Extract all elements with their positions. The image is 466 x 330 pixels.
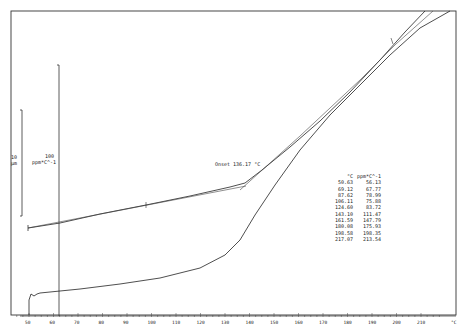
scale-bar-10um <box>20 110 22 216</box>
baseline-tangent <box>28 186 246 228</box>
x-tick-label: 150 <box>270 320 278 325</box>
tma-chart: 5060708090100110120130140150160170180190… <box>0 0 466 330</box>
cte-table: °Cppm*C^-150.6356.1369.1267.7787.6278.99… <box>327 173 381 242</box>
table-row: 217.07213.54 <box>327 236 381 242</box>
x-tick-label: 90 <box>123 320 129 325</box>
x-tick-label: 50 <box>25 320 31 325</box>
x-tick-label: 100 <box>148 320 156 325</box>
x-tick-label: 120 <box>197 320 205 325</box>
scale-big-unit: ppm*C^-1 <box>32 159 56 166</box>
range-end-mark <box>391 38 393 44</box>
x-tick-label: 190 <box>368 320 376 325</box>
x-tick-label: 210 <box>417 320 425 325</box>
scale-bar-100ppm <box>57 65 59 316</box>
onset-label: Onset 136.17 °C <box>215 161 260 167</box>
x-tick-label: 180 <box>344 320 352 325</box>
x-unit-label: °C <box>451 320 457 325</box>
x-tick-label: 110 <box>172 320 180 325</box>
x-tick-label: 60 <box>50 320 56 325</box>
x-tick-label: 160 <box>295 320 303 325</box>
x-tick-label: 130 <box>221 320 229 325</box>
x-tick-label: 140 <box>246 320 254 325</box>
slope-tangent <box>240 11 433 190</box>
x-tick-label: 200 <box>393 320 401 325</box>
x-tick-label: 80 <box>99 320 105 325</box>
x-tick-label: 70 <box>74 320 80 325</box>
scale-small-unit: µm <box>11 160 17 167</box>
x-tick-label: 170 <box>319 320 327 325</box>
